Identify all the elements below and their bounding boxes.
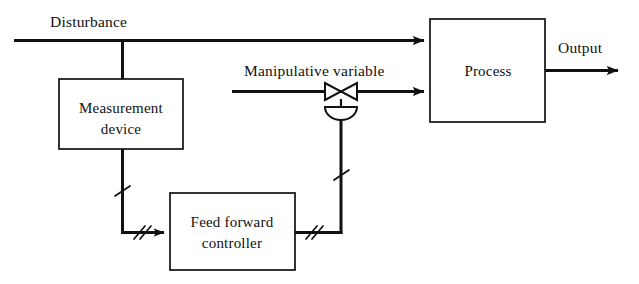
block-process: Process: [430, 19, 545, 122]
process-label: Process: [464, 63, 511, 79]
block-feed-forward-controller: Feed forward controller: [170, 193, 295, 270]
measurement-device-label-line1: Measurement: [79, 100, 163, 116]
block-measurement-device: Measurement device: [59, 79, 183, 149]
diaphragm-actuator: [325, 107, 357, 120]
output-label: Output: [558, 39, 603, 56]
manipulative-variable-label: Manipulative variable: [244, 62, 385, 79]
diagram-svg: Measurement device Feed forward controll…: [0, 0, 639, 284]
feed-forward-controller-box: [170, 193, 295, 270]
control-valve-symbol: [325, 83, 357, 120]
feed-forward-controller-label-line1: Feed forward: [191, 214, 274, 230]
measurement-to-controller-path: [115, 149, 164, 239]
measurement-device-label-line2: device: [101, 121, 141, 137]
controller-to-valve-path: [295, 117, 349, 239]
feed-forward-controller-label-line2: controller: [202, 235, 262, 251]
block-diagram-canvas: Measurement device Feed forward controll…: [0, 0, 639, 284]
disturbance-label: Disturbance: [50, 13, 127, 30]
valve-left-triangle: [325, 83, 341, 100]
valve-right-triangle: [341, 83, 357, 100]
